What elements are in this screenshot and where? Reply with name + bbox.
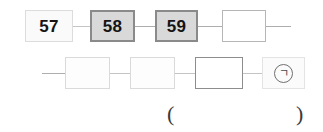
sequence-box-2-value: 58 — [103, 18, 123, 35]
sequence-box-3-value: 59 — [167, 18, 187, 35]
sequence-box-3[interactable]: 59 — [155, 10, 198, 42]
worksheet-canvas: 57 58 59 ㄱ ( ) — [0, 0, 323, 132]
connector-6-7 — [175, 73, 195, 74]
sequence-box-8[interactable]: ㄱ — [262, 57, 305, 89]
answer-open-paren: ( — [167, 103, 174, 125]
answer-close-paren: ) — [296, 103, 303, 125]
connector-1-2 — [73, 26, 90, 27]
sequence-box-4[interactable] — [222, 10, 266, 42]
sequence-box-1[interactable]: 57 — [25, 10, 73, 42]
row1-trailing-line — [266, 26, 291, 27]
sequence-box-6[interactable] — [130, 57, 175, 89]
sequence-box-7[interactable] — [195, 57, 243, 89]
connector-7-8 — [243, 73, 262, 74]
connector-3-4 — [198, 26, 222, 27]
sequence-box-2[interactable]: 58 — [90, 10, 135, 42]
connector-2-3 — [135, 26, 155, 27]
row2-leading-line — [42, 73, 65, 74]
circled-giyeok-icon: ㄱ — [274, 64, 293, 83]
sequence-box-5[interactable] — [65, 57, 110, 89]
circled-giyeok-glyph: ㄱ — [279, 68, 289, 79]
sequence-box-1-value: 57 — [39, 18, 59, 35]
connector-5-6 — [110, 73, 130, 74]
